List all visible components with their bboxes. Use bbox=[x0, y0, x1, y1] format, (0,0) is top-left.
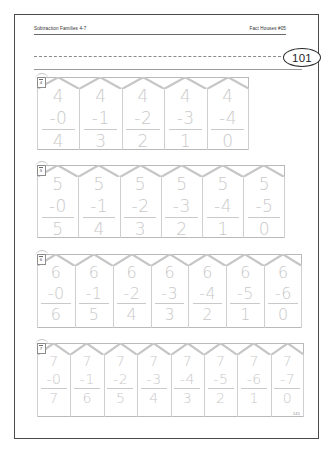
answer-digit[interactable]: 2 bbox=[202, 307, 212, 323]
answer-digit[interactable]: 7 bbox=[49, 391, 58, 405]
answer-digit[interactable]: 0 bbox=[278, 307, 288, 323]
fact-house[interactable]: 4-31 bbox=[164, 77, 206, 150]
minus-operator: - bbox=[90, 198, 96, 215]
fact-house[interactable]: 5-41 bbox=[202, 165, 243, 238]
subtrahend-line: -3 bbox=[173, 198, 190, 215]
subtraction-problem: 7-52 bbox=[204, 354, 237, 405]
family-badge: 4 bbox=[37, 77, 46, 88]
fact-house[interactable]: 7-16 bbox=[70, 343, 103, 417]
subtrahend-line: -3 bbox=[177, 110, 194, 127]
answer-digit[interactable]: 4 bbox=[127, 307, 137, 323]
subtrahend-digit: 5 bbox=[243, 286, 253, 302]
minuend-digit: 7 bbox=[283, 354, 292, 368]
subtraction-problem: 7-16 bbox=[70, 354, 103, 405]
subtraction-problem: 4-31 bbox=[164, 88, 206, 150]
fact-house[interactable]: 7-70 bbox=[271, 343, 304, 417]
minus-operator: - bbox=[49, 198, 55, 215]
subtraction-problem: 5-32 bbox=[161, 176, 202, 238]
fact-house[interactable]: 5-50 bbox=[243, 165, 284, 238]
subtrahend-digit: 6 bbox=[252, 372, 261, 386]
fact-house[interactable]: 6-15 bbox=[75, 254, 113, 328]
fact-house[interactable]: 5-32 bbox=[161, 165, 202, 238]
subtrahend-digit: 0 bbox=[56, 198, 67, 215]
answer-digit[interactable]: 1 bbox=[249, 391, 258, 405]
subtrahend-digit: 0 bbox=[52, 372, 61, 386]
house-strip: 4-044-134-224-314-40 bbox=[37, 77, 249, 150]
subtrahend-line: -5 bbox=[213, 372, 227, 386]
fact-house[interactable]: 5-05 bbox=[37, 165, 78, 238]
minuend-digit: 4 bbox=[180, 88, 191, 105]
minuend-digit: 7 bbox=[183, 354, 192, 368]
minuend-digit: 4 bbox=[53, 88, 64, 105]
minus-operator: - bbox=[177, 110, 183, 127]
answer-digit[interactable]: 3 bbox=[164, 307, 174, 323]
answer-digit[interactable]: 6 bbox=[83, 391, 92, 405]
answer-digit[interactable]: 2 bbox=[138, 133, 149, 150]
fact-house[interactable]: 4-22 bbox=[122, 77, 164, 150]
fact-house[interactable]: 7-43 bbox=[171, 343, 204, 417]
answer-digit[interactable]: 3 bbox=[135, 221, 146, 238]
answer-digit[interactable]: 6 bbox=[51, 307, 61, 323]
subtraction-problem: 6-06 bbox=[37, 265, 75, 323]
answer-digit[interactable]: 0 bbox=[259, 221, 270, 238]
answer-digit[interactable]: 1 bbox=[180, 133, 191, 150]
house-strip: 5-055-145-235-325-415-50 bbox=[37, 165, 285, 238]
fact-house[interactable]: 4-13 bbox=[79, 77, 121, 150]
answer-digit[interactable]: 5 bbox=[52, 221, 63, 238]
fact-house[interactable]: 6-06 bbox=[37, 254, 75, 328]
answer-digit[interactable]: 3 bbox=[95, 133, 106, 150]
minuend-digit: 6 bbox=[89, 265, 99, 281]
minus-operator: - bbox=[86, 286, 92, 302]
minus-operator: - bbox=[123, 286, 129, 302]
answer-digit[interactable]: 5 bbox=[116, 391, 125, 405]
fact-house[interactable]: 6-42 bbox=[188, 254, 226, 328]
minus-operator: - bbox=[173, 198, 179, 215]
fact-house[interactable]: 5-23 bbox=[120, 165, 161, 238]
answer-digit[interactable]: 3 bbox=[183, 391, 192, 405]
family-badge-number: 7 bbox=[40, 347, 42, 351]
fact-house[interactable]: 5-14 bbox=[78, 165, 119, 238]
worksheet-page: Subtraction Families 4-7 Fact Houses #05… bbox=[14, 14, 319, 439]
fact-house[interactable]: 6-51 bbox=[226, 254, 264, 328]
subtraction-problem: 6-60 bbox=[264, 265, 302, 323]
fact-house[interactable]: 6-33 bbox=[151, 254, 189, 328]
subtrahend-digit: 3 bbox=[183, 110, 194, 127]
answer-digit[interactable]: 0 bbox=[283, 391, 292, 405]
minuend-digit: 7 bbox=[149, 354, 158, 368]
subtraction-problem: 5-50 bbox=[243, 176, 284, 238]
fact-house[interactable]: 7-61 bbox=[237, 343, 270, 417]
subtrahend-line: -1 bbox=[92, 110, 109, 127]
subtraction-problem: 7-07 bbox=[37, 354, 70, 405]
fact-house[interactable]: 7-25 bbox=[104, 343, 137, 417]
subtraction-problem: 5-05 bbox=[37, 176, 78, 238]
fact-house[interactable]: 4-40 bbox=[207, 77, 249, 150]
fact-house[interactable]: 7-52 bbox=[204, 343, 237, 417]
answer-digit[interactable]: 1 bbox=[240, 307, 250, 323]
answer-digit[interactable]: 0 bbox=[222, 133, 233, 150]
fact-house[interactable]: 6-24 bbox=[113, 254, 151, 328]
fact-house[interactable]: 7-07 bbox=[37, 343, 70, 417]
family-badge: 6 bbox=[37, 254, 46, 265]
subtrahend-digit: 1 bbox=[85, 372, 94, 386]
subtrahend-line: -6 bbox=[275, 286, 291, 302]
answer-digit[interactable]: 5 bbox=[89, 307, 99, 323]
minuend-digit: 5 bbox=[135, 176, 146, 193]
minuend-digit: 7 bbox=[83, 354, 92, 368]
subtrahend-line: -2 bbox=[132, 198, 149, 215]
answer-rule bbox=[141, 388, 167, 389]
subtrahend-line: -2 bbox=[113, 372, 127, 386]
minus-operator: - bbox=[46, 372, 51, 386]
answer-rule bbox=[83, 217, 115, 218]
answer-digit[interactable]: 4 bbox=[53, 133, 64, 150]
fact-house[interactable]: 6-60 bbox=[264, 254, 302, 328]
answer-digit[interactable]: 1 bbox=[217, 221, 228, 238]
subtraction-problem: 6-15 bbox=[75, 265, 113, 323]
answer-digit[interactable]: 4 bbox=[94, 221, 105, 238]
answer-digit[interactable]: 2 bbox=[216, 391, 225, 405]
answer-digit[interactable]: 2 bbox=[176, 221, 187, 238]
fact-house[interactable]: 7-34 bbox=[137, 343, 170, 417]
answer-digit[interactable]: 4 bbox=[149, 391, 158, 405]
answer-rule bbox=[107, 388, 133, 389]
fact-house[interactable]: 4-04 bbox=[37, 77, 79, 150]
family-badge-number: 6 bbox=[40, 258, 42, 262]
